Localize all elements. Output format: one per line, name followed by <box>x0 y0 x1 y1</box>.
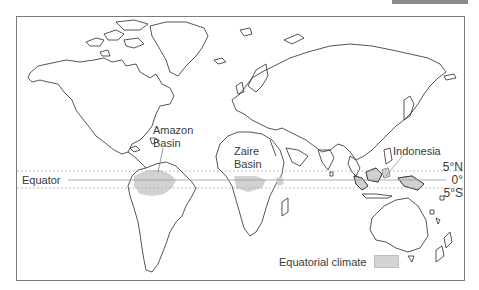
amazon-leader-line <box>158 148 163 172</box>
latitude-5s-label: 5°S <box>444 186 463 200</box>
eurasia-outline <box>232 44 446 160</box>
indonesia-label: Indonesia <box>393 145 441 158</box>
zaire-east-shading <box>276 176 284 186</box>
australia-outline <box>370 198 428 252</box>
zaire-basin-label: Zaire Basin <box>234 145 262 171</box>
latitude-0-label: 0° <box>452 173 463 187</box>
latitude-5n-label: 5°N <box>443 160 463 174</box>
amazon-basin-shading <box>134 170 176 196</box>
amazon-basin-label: Amazon Basin <box>153 124 193 150</box>
legend-label: Equatorial climate <box>279 256 366 268</box>
zaire-basin-shading <box>234 176 266 192</box>
equator-label: Equator <box>22 174 61 187</box>
greenland-outline <box>150 22 208 76</box>
map-legend: Equatorial climate <box>279 255 399 268</box>
legend-swatch <box>374 255 399 268</box>
